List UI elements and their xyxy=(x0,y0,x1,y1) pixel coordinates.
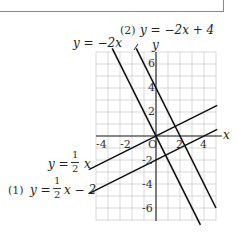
x-tick: 2 xyxy=(176,138,183,151)
label-marker-2: (2) xyxy=(120,24,136,37)
y-tick: -2 xyxy=(142,154,153,167)
y-axis-label: y xyxy=(152,38,159,52)
x-axis-label: x xyxy=(223,128,230,142)
x-tick: 4 xyxy=(200,138,207,151)
label-line-y-half-x-minus2-rest: x − 2 xyxy=(64,183,96,197)
y-tick: -4 xyxy=(142,178,153,191)
x-tick: -2 xyxy=(120,138,131,151)
y-tick: 2 xyxy=(148,105,155,118)
origin-label: O xyxy=(148,138,157,151)
y-tick: -6 xyxy=(142,202,153,215)
label-line-y-half-x-minus2-eq: y = xyxy=(30,183,51,197)
label-line-y-half-x-eq: y = xyxy=(48,157,69,171)
label-line-y-neg2x: y = −2x xyxy=(73,36,122,50)
frac-den: 2 xyxy=(54,189,60,200)
label-marker-1: (1) xyxy=(8,184,24,197)
frac-den: 2 xyxy=(72,163,78,174)
y-tick: 6 xyxy=(148,57,155,70)
frac-num: 1 xyxy=(72,149,78,160)
y-tick: 4 xyxy=(148,81,155,94)
label-line-y-neg2x-plus4: y = −2x + 4 xyxy=(140,23,214,37)
label-line-y-half-x-var: x xyxy=(84,157,91,171)
x-tick: -4 xyxy=(96,138,107,151)
frac-num: 1 xyxy=(54,175,60,186)
